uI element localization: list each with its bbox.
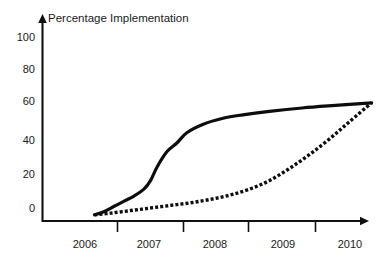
- y-tick-label-100: 100: [17, 31, 35, 43]
- series-line-dotted: [94, 103, 371, 215]
- chart-title: Percentage Implementation: [48, 12, 189, 24]
- chart-plot-area: 100 80 60 40 20 0 2006 2007 2008 2009 20…: [0, 0, 385, 259]
- y-axis-arrow-icon: [38, 14, 47, 23]
- y-tick-label-40: 40: [23, 134, 35, 146]
- y-tick-label-20: 20: [23, 168, 35, 180]
- x-tick-label-2009: 2009: [271, 238, 295, 250]
- series-line-solid: [94, 103, 371, 215]
- x-tick-label-2006: 2006: [73, 238, 97, 250]
- chart-container: 100 80 60 40 20 0 2006 2007 2008 2009 20…: [0, 0, 385, 259]
- x-tick-label-2010: 2010: [338, 238, 362, 250]
- y-tick-label-0: 0: [29, 202, 35, 214]
- y-tick-label-80: 80: [23, 63, 35, 75]
- x-tick-label-2008: 2008: [203, 238, 227, 250]
- x-axis-arrow-icon: [360, 217, 369, 226]
- x-tick-label-2007: 2007: [137, 238, 161, 250]
- y-tick-label-60: 60: [23, 95, 35, 107]
